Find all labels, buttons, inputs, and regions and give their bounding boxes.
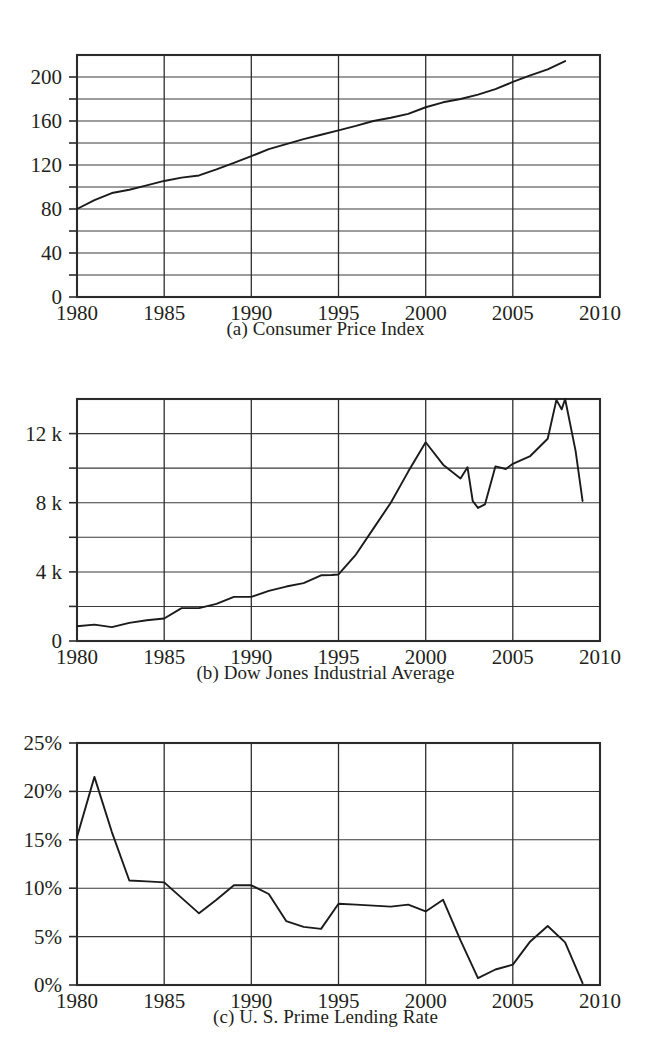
djia-ytick-4k: 4 k xyxy=(36,560,63,584)
cpi-xtick-2000: 2000 xyxy=(405,301,447,320)
prime-y-tickmarks xyxy=(69,743,77,985)
caption-panel-b: (b) Dow Jones Industrial Average xyxy=(0,662,651,684)
prime-ytick-10: 10% xyxy=(24,876,63,900)
djia-xtick-1990: 1990 xyxy=(230,645,272,664)
cpi-y-tickmarks xyxy=(69,77,77,297)
prime-xtick-1995: 1995 xyxy=(318,989,360,1008)
cpi-xtick-2005: 2005 xyxy=(492,301,534,320)
djia-chart-svg: 0 4 k 8 k 12 k 1980 1985 1990 1995 2000 … xyxy=(0,344,651,664)
caption-panel-c: (c) U. S. Prime Lending Rate xyxy=(0,1006,651,1028)
prime-ytick-25: 25% xyxy=(24,731,63,755)
prime-chart-svg: 0% 5% 10% 15% 20% 25% 1980 1985 1990 199… xyxy=(0,688,651,1008)
cpi-xtick-1995: 1995 xyxy=(318,301,360,320)
djia-xtick-1985: 1985 xyxy=(143,645,185,664)
cpi-ytick-200: 200 xyxy=(31,65,63,89)
plot-area-prime: 0% 5% 10% 15% 20% 25% 1980 1985 1990 199… xyxy=(0,688,651,1008)
djia-xtick-2010: 2010 xyxy=(579,645,621,664)
prime-xtick-2005: 2005 xyxy=(492,989,534,1008)
cpi-xtick-2010: 2010 xyxy=(579,301,621,320)
djia-xtick-1980: 1980 xyxy=(56,645,98,664)
cpi-ytick-120: 120 xyxy=(31,153,63,177)
prime-data-line xyxy=(77,777,583,983)
figure-panel-b: 0 4 k 8 k 12 k 1980 1985 1990 1995 2000 … xyxy=(0,344,651,684)
cpi-xtick-1985: 1985 xyxy=(143,301,185,320)
djia-xtick-2000: 2000 xyxy=(405,645,447,664)
djia-y-axis-labels: 0 4 k 8 k 12 k xyxy=(25,422,62,653)
cpi-xtick-1990: 1990 xyxy=(230,301,272,320)
djia-xtick-2005: 2005 xyxy=(492,645,534,664)
djia-ytick-12k: 12 k xyxy=(25,422,62,446)
cpi-chart-svg: 0 40 80 120 160 200 1980 1985 1990 1995 … xyxy=(0,0,651,320)
cpi-x-axis-labels: 1980 1985 1990 1995 2000 2005 2010 xyxy=(56,301,621,320)
prime-y-axis-labels: 0% 5% 10% 15% 20% 25% xyxy=(24,731,63,997)
prime-x-axis-labels: 1980 1985 1990 1995 2000 2005 2010 xyxy=(56,989,621,1008)
djia-x-axis-labels: 1980 1985 1990 1995 2000 2005 2010 xyxy=(56,645,621,664)
prime-ytick-20: 20% xyxy=(24,779,63,803)
figure-page: 0 40 80 120 160 200 1980 1985 1990 1995 … xyxy=(0,0,651,1051)
cpi-y-axis-labels: 0 40 80 120 160 200 xyxy=(31,65,63,309)
prime-xtick-2000: 2000 xyxy=(405,989,447,1008)
djia-y-tickmarks xyxy=(69,434,77,641)
prime-ytick-15: 15% xyxy=(24,828,63,852)
figure-panel-c: 0% 5% 10% 15% 20% 25% 1980 1985 1990 199… xyxy=(0,688,651,1028)
plot-area-djia: 0 4 k 8 k 12 k 1980 1985 1990 1995 2000 … xyxy=(0,344,651,664)
caption-panel-a: (a) Consumer Price Index xyxy=(0,318,651,340)
prime-xtick-1990: 1990 xyxy=(230,989,272,1008)
cpi-vertical-gridlines xyxy=(164,55,513,297)
cpi-xtick-1980: 1980 xyxy=(56,301,98,320)
djia-xtick-1995: 1995 xyxy=(318,645,360,664)
prime-xtick-1985: 1985 xyxy=(143,989,185,1008)
cpi-ytick-160: 160 xyxy=(31,109,63,133)
djia-ytick-8k: 8 k xyxy=(36,491,63,515)
prime-xtick-1980: 1980 xyxy=(56,989,98,1008)
figure-panel-a: 0 40 80 120 160 200 1980 1985 1990 1995 … xyxy=(0,0,651,340)
cpi-ytick-80: 80 xyxy=(41,197,62,221)
prime-vertical-gridlines xyxy=(164,743,513,985)
plot-area-cpi: 0 40 80 120 160 200 1980 1985 1990 1995 … xyxy=(0,0,651,320)
prime-ytick-5: 5% xyxy=(34,925,62,949)
cpi-ytick-40: 40 xyxy=(41,241,62,265)
prime-xtick-2010: 2010 xyxy=(579,989,621,1008)
